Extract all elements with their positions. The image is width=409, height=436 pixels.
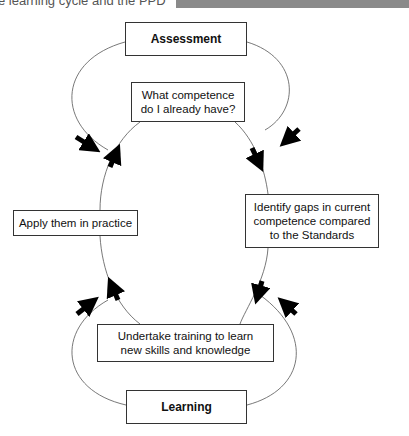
node-assessment: Assessment bbox=[125, 22, 247, 56]
node-learning: Learning bbox=[126, 390, 247, 424]
node-training: Undertake training to learn new skills a… bbox=[97, 324, 274, 362]
node-what-competence: What competence do I already have? bbox=[131, 82, 245, 122]
node-identify-gaps: Identify gaps in current competence comp… bbox=[245, 194, 379, 248]
node-apply: Apply them in practice bbox=[13, 210, 138, 236]
